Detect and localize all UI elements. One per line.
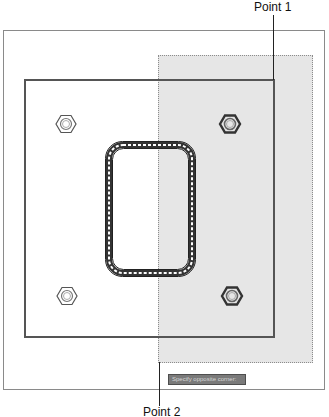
hex-nut-icon[interactable] <box>57 288 77 305</box>
hex-nut-icon[interactable] <box>56 116 76 133</box>
hex-nut-icon[interactable] <box>222 288 242 305</box>
rebar-rounded-rectangle[interactable] <box>106 142 196 277</box>
drawing-canvas[interactable] <box>0 0 329 417</box>
cursor-prompt-tooltip: Specify opposite corner: <box>168 374 246 385</box>
point1-leader-line <box>273 15 274 80</box>
point1-label: Point 1 <box>254 0 291 14</box>
point2-label: Point 2 <box>143 405 180 417</box>
point2-leader-line <box>159 362 160 406</box>
hex-nut-icon[interactable] <box>220 116 240 133</box>
